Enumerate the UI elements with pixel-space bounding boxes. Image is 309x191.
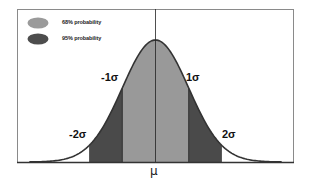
label-one-sigma: 1σ <box>186 71 200 83</box>
legend-label-68: 68% probability <box>62 19 101 25</box>
label-two-sigma: 2σ <box>222 128 236 140</box>
legend-swatch-68 <box>28 18 49 29</box>
legend-label-95: 95% probability <box>62 35 101 41</box>
label-minus-two-sigma: -2σ <box>69 128 86 140</box>
label-mu: μ <box>150 164 158 178</box>
bell-curve-svg <box>0 0 309 191</box>
legend-swatch-95 <box>28 34 49 45</box>
label-minus-one-sigma: -1σ <box>101 71 118 83</box>
normal-distribution-diagram: 68% probability 95% probability -1σ 1σ -… <box>0 0 309 191</box>
